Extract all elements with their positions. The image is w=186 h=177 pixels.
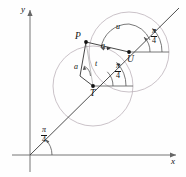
y-axis-label: y	[21, 5, 25, 14]
point-label-P: P	[75, 32, 81, 42]
angle-fraction-at-T-denominator: 4	[115, 72, 121, 80]
angle-fraction-origin-denominator: 4	[41, 136, 47, 144]
point-label-U: U	[127, 55, 134, 65]
geometry-figure: y x P T U a a t u π 4 π 4 π 4	[0, 0, 186, 177]
length-label-a-upper: a	[101, 42, 105, 50]
angle-fraction-origin: π 4	[41, 126, 47, 144]
segment-foot-to-T	[80, 76, 93, 86]
point-label-T: T	[90, 89, 95, 99]
length-label-a-lower: a	[74, 63, 78, 71]
angle-fraction-at-U: π 4	[151, 27, 157, 45]
angle-fraction-at-U-numerator: π	[151, 27, 157, 35]
segment-P-to-U	[86, 42, 129, 52]
angle-fraction-at-T-numerator: π	[115, 62, 121, 70]
y-axis-arrowhead	[27, 10, 32, 16]
angle-fraction-at-T: π 4	[115, 62, 121, 80]
x-axis-label: x	[171, 157, 175, 166]
point-marker-P	[84, 40, 88, 44]
angle-label-t: t	[95, 60, 97, 68]
angle-label-u: u	[116, 23, 120, 31]
angle-fraction-at-U-denominator: 4	[151, 37, 157, 45]
angle-fraction-origin-numerator: π	[41, 126, 47, 134]
